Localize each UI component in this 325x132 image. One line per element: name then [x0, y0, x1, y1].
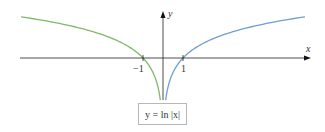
tick-label-pos1: 1 — [181, 63, 186, 74]
left-branch-curve — [21, 17, 160, 100]
x-axis-arrow-icon — [304, 56, 311, 61]
tick-label-neg1: −1 — [133, 63, 144, 74]
y-axis-arrow-icon — [161, 11, 166, 18]
y-axis-label: y — [167, 8, 173, 19]
equation-label: y = ln |x| — [138, 103, 187, 125]
right-branch-curve — [166, 17, 305, 100]
x-axis-label: x — [305, 43, 311, 54]
